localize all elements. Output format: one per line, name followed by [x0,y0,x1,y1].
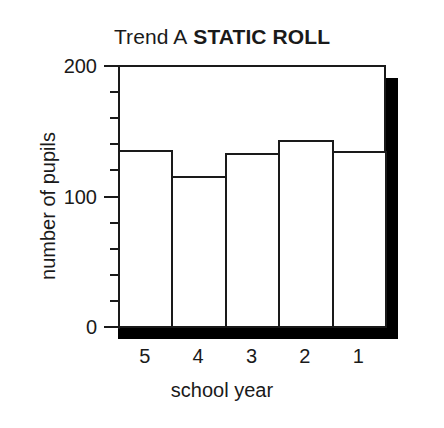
y-tick-label-200: 200 [17,56,97,76]
y-tick-label-0: 0 [17,317,97,337]
x-tick-label-5: 5 [115,344,175,368]
bar-5 [118,150,173,328]
y-tick-minor-80 [110,222,119,224]
y-tick-major-200 [104,65,119,67]
y-tick-major-100 [104,196,119,198]
plot-shadow-bottom [118,327,398,339]
x-tick-label-1: 1 [328,344,388,368]
x-tick-label-2: 2 [275,344,335,368]
y-tick-minor-40 [110,274,119,276]
y-tick-minor-140 [110,143,119,145]
y-tick-minor-20 [110,300,119,302]
y-tick-minor-180 [110,91,119,93]
x-tick-label-3: 3 [222,344,282,368]
x-axis-title: school year [0,378,444,402]
y-tick-minor-120 [110,169,119,171]
y-tick-minor-60 [110,248,119,250]
bar-1 [332,151,387,328]
y-tick-label-100: 100 [17,187,97,207]
chart-title-regular: Trend A [114,25,187,48]
plot-frame-top [118,65,386,67]
chart-title-bold: STATIC ROLL [193,25,330,48]
bar-2 [278,140,333,328]
y-tick-major-0 [104,326,119,328]
bar-4 [171,176,226,328]
y-tick-minor-160 [110,117,119,119]
chart-title: Trend A STATIC ROLL [0,24,444,50]
bar-chart-figure: Trend A STATIC ROLL number of pupils sch… [0,0,444,428]
bar-3 [225,153,280,328]
x-tick-label-4: 4 [168,344,228,368]
